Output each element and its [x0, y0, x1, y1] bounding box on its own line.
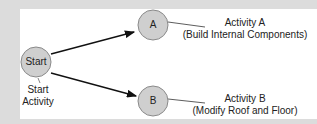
- node-start-label: Start: [21, 56, 51, 67]
- node-b-label: B: [138, 95, 168, 106]
- activity-a-caption: Activity A (Build Internal Components): [170, 17, 317, 41]
- node-a-label: A: [138, 19, 168, 30]
- arrow-start-to-b: [51, 73, 136, 96]
- leader-line-start: [38, 78, 40, 83]
- arrow-start-to-a: [51, 32, 134, 54]
- activity-b-caption: Activity B (Modify Roof and Floor): [175, 93, 315, 117]
- start-caption: Start Activity: [18, 84, 58, 108]
